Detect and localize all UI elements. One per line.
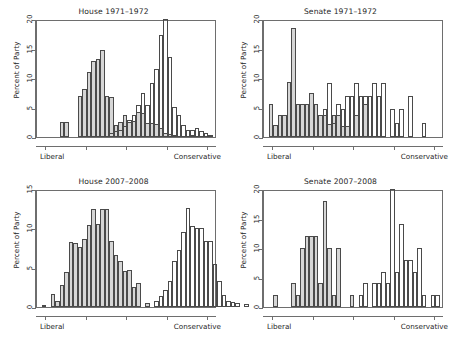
- histogram-bar: [336, 248, 341, 307]
- panel-title: House 2007–2008: [0, 177, 227, 186]
- y-axis-tick-label: 5: [253, 275, 261, 279]
- panel-senate-2007-2008: Senate 2007–2008 Percent of Party 051015…: [227, 170, 454, 339]
- x-axis-tick: [313, 316, 314, 320]
- y-axis-tick-label: 20: [253, 15, 261, 24]
- y-axis-tick-label: 10: [26, 224, 34, 233]
- x-axis-label-left: Liberal: [267, 322, 291, 331]
- y-axis-label: Percent of Party: [12, 10, 22, 130]
- y-axis-tick-label: 0: [26, 305, 34, 309]
- y-axis-label: Percent of Party: [12, 180, 22, 300]
- x-axis-tick: [272, 316, 273, 320]
- x-axis-tick: [394, 146, 395, 150]
- histogram-bars: [264, 191, 442, 307]
- panel-house-2007-2008: House 2007–2008 Percent of Party 051015 …: [0, 170, 227, 339]
- y-axis-tick-label: 10: [26, 74, 34, 83]
- x-axis-label-left: Liberal: [267, 152, 291, 161]
- y-axis-tick-label: 5: [26, 105, 34, 109]
- histogram-bar: [235, 303, 240, 307]
- x-axis: [36, 316, 216, 317]
- x-axis-tick: [207, 316, 208, 320]
- plot-area: [36, 190, 216, 308]
- x-axis: [263, 316, 443, 317]
- y-axis-tick-label: 0: [253, 305, 261, 309]
- x-axis-tick: [353, 316, 354, 320]
- y-axis-tick-label: 20: [253, 185, 261, 194]
- y-axis-tick-label: 0: [253, 135, 261, 139]
- y-axis-tick-label: 15: [26, 185, 34, 194]
- figure-canvas: House 1971–1972 Percent of Party 0510152…: [0, 0, 454, 339]
- y-axis-tick-label: 15: [26, 44, 34, 53]
- panel-title: House 1971–1972: [0, 7, 227, 16]
- histogram-bar: [42, 305, 47, 307]
- histogram-bar: [136, 283, 141, 307]
- histogram-bar: [399, 109, 404, 137]
- x-axis: [263, 146, 443, 147]
- y-axis-tick-label: 5: [253, 105, 261, 109]
- x-axis-tick: [353, 146, 354, 150]
- histogram-bars: [37, 191, 215, 307]
- x-axis-label-right: Conservative: [401, 152, 448, 161]
- panel-title: Senate 2007–2008: [227, 177, 454, 186]
- x-axis-tick: [86, 146, 87, 150]
- histogram-bar: [350, 295, 355, 307]
- histogram-bar: [363, 283, 368, 307]
- x-axis-tick: [434, 316, 435, 320]
- histogram-bars: [264, 21, 442, 137]
- histogram-bar: [145, 303, 150, 307]
- x-axis-tick: [45, 146, 46, 150]
- histogram-bars: [37, 21, 215, 137]
- x-axis-label-right: Conservative: [401, 322, 448, 331]
- y-axis-tick-label: 20: [26, 15, 34, 24]
- x-axis-tick: [167, 146, 168, 150]
- y-axis-label: Percent of Party: [239, 10, 249, 130]
- x-axis-label-left: Liberal: [40, 322, 64, 331]
- x-axis-tick: [434, 146, 435, 150]
- panel-senate-1971-1972: Senate 1971–1972 Percent of Party 051015…: [227, 0, 454, 169]
- panel-title: Senate 1971–1972: [227, 7, 454, 16]
- x-axis-tick: [126, 316, 127, 320]
- histogram-bar: [435, 295, 440, 307]
- x-axis-tick: [45, 316, 46, 320]
- histogram-bar: [244, 304, 249, 307]
- y-axis-tick-label: 10: [253, 244, 261, 253]
- y-axis-tick-label: 15: [253, 44, 261, 53]
- histogram-bar: [208, 135, 213, 137]
- plot-area: [36, 20, 216, 138]
- histogram-bar: [64, 122, 69, 137]
- histogram-bar: [381, 83, 386, 137]
- x-axis-tick: [86, 316, 87, 320]
- x-axis-tick: [272, 146, 273, 150]
- y-axis-tick-label: 15: [253, 214, 261, 223]
- y-axis-tick-label: 0: [26, 135, 34, 139]
- y-axis-tick-label: 5: [26, 265, 34, 269]
- panel-house-1971-1972: House 1971–1972 Percent of Party 0510152…: [0, 0, 227, 169]
- plot-area: [263, 190, 443, 308]
- x-axis-label-right: Conservative: [174, 152, 221, 161]
- x-axis-label-left: Liberal: [40, 152, 64, 161]
- histogram-bar: [408, 96, 413, 137]
- x-axis-tick: [207, 146, 208, 150]
- histogram-bar: [422, 295, 427, 307]
- x-axis-label-right: Conservative: [174, 322, 221, 331]
- x-axis-tick: [394, 316, 395, 320]
- x-axis-tick: [313, 146, 314, 150]
- x-axis-tick: [167, 316, 168, 320]
- x-axis-tick: [126, 146, 127, 150]
- y-axis-label: Percent of Party: [239, 180, 249, 300]
- histogram-bar: [422, 123, 427, 137]
- x-axis: [36, 146, 216, 147]
- histogram-bar: [273, 295, 278, 307]
- y-axis-tick-label: 10: [253, 74, 261, 83]
- plot-area: [263, 20, 443, 138]
